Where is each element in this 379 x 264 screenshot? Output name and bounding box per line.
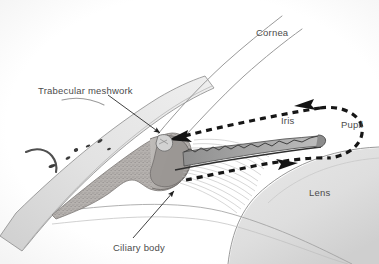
- label-pupil: Pupil: [341, 120, 363, 130]
- trabecular-meshwork-structure: [156, 135, 173, 152]
- label-ciliary-body: Ciliary body: [113, 243, 165, 253]
- label-trabecular-meshwork: Trabecular meshwork: [38, 86, 133, 96]
- label-cornea: Cornea: [256, 28, 288, 38]
- diagram-canvas: [0, 0, 379, 264]
- eye-anatomy-diagram: Cornea Trabecular meshwork Iris Pupil Le…: [0, 0, 379, 264]
- label-lens: Lens: [309, 188, 330, 198]
- label-iris: Iris: [281, 116, 294, 126]
